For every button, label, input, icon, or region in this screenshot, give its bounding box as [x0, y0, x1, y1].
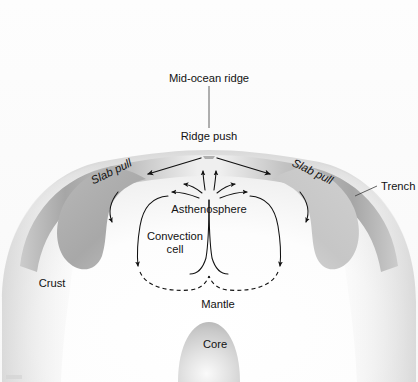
trench-label: Trench: [381, 180, 415, 192]
convection-cell-label-line2: cell: [167, 243, 184, 255]
asthenosphere-label: Asthenosphere: [171, 203, 246, 215]
crust-label: Crust: [39, 277, 67, 289]
core-label: Core: [203, 338, 227, 350]
ridge-crest: [203, 156, 215, 159]
diagram-canvas: Mid-ocean ridge Ridge push Slab pull Sla…: [0, 0, 418, 382]
ridge-push-label: Ridge push: [181, 130, 238, 142]
page-corner-mark: [6, 375, 22, 379]
plate-tectonics-figure: Mid-ocean ridge Ridge push Slab pull Sla…: [0, 0, 418, 382]
convection-cell-label-line1: Convection: [147, 230, 203, 242]
mid-ocean-ridge-label: Mid-ocean ridge: [169, 72, 249, 84]
mantle-label: Mantle: [201, 298, 235, 310]
